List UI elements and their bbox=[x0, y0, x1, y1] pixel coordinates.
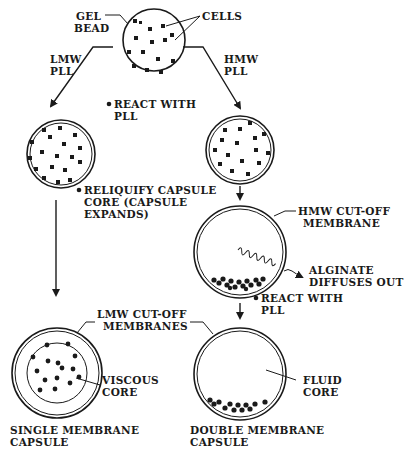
hmw-pll-label-line1: HMW bbox=[224, 53, 258, 65]
lmw-pll-capsule bbox=[27, 120, 95, 188]
single-membrane-caption-line2: CAPSULE bbox=[10, 436, 69, 448]
cells-label: CELLS bbox=[202, 10, 242, 22]
single-membrane-caption-line1: SINGLE MEMBRANE bbox=[10, 424, 139, 436]
viscous-core-label-line2: CORE bbox=[102, 386, 137, 398]
lmw-cutoff-label-line1: LMW CUT-OFF bbox=[97, 308, 187, 320]
viscous-core-leader bbox=[76, 378, 100, 385]
double-membrane-caption-line2: CAPSULE bbox=[190, 436, 249, 448]
fluid-core-label-line2: CORE bbox=[303, 386, 338, 398]
lmw-cutoff-leader-left bbox=[77, 322, 95, 333]
react-with-pll-label-line1: REACT WITH bbox=[114, 98, 196, 110]
alginate-label-line1: ALGINATE bbox=[308, 264, 374, 276]
lmw-cutoff-label-line2: MEMBRANES bbox=[103, 320, 188, 332]
hmw-cutoff-leader bbox=[274, 211, 296, 216]
hmw-cutoff-label-line1: HMW CUT-OFF bbox=[298, 205, 391, 217]
bullet-icon bbox=[107, 102, 112, 107]
fluid-core-leader bbox=[266, 370, 296, 380]
hmw-pll-capsule bbox=[206, 116, 274, 184]
hmw-pll-label-line2: PLL bbox=[224, 65, 248, 77]
lmw-cutoff-leader-right bbox=[190, 322, 213, 334]
react-with-pll-2-line2: PLL bbox=[261, 304, 285, 316]
capsule-formation-diagram: GEL BEAD CELLS LMW PLL HMW PLL REACT WIT… bbox=[0, 0, 418, 460]
viscous-core-label-line1: VISCOUS bbox=[101, 374, 159, 386]
reliquify-label-line2: CORE (CAPSULE bbox=[84, 196, 187, 208]
hmw-reliquified-capsule bbox=[194, 206, 286, 298]
bullet-icon bbox=[254, 296, 259, 301]
gel-bead bbox=[123, 9, 185, 74]
double-membrane-caption-line1: DOUBLE MEMBRANE bbox=[190, 424, 324, 436]
fluid-core-label-line1: FLUID bbox=[303, 374, 342, 386]
settled-cells bbox=[211, 276, 265, 291]
alginate-wave bbox=[237, 247, 277, 266]
lmw-pll-label-line1: LMW bbox=[50, 53, 82, 65]
cells-in-bead bbox=[127, 19, 175, 74]
alginate-out-arrow bbox=[284, 270, 302, 278]
hmw-cutoff-label-line2: MEMBRANE bbox=[303, 217, 380, 229]
reliquify-label-line3: EXPANDS) bbox=[84, 208, 149, 220]
alginate-label-line2: DIFFUSES OUT bbox=[309, 276, 404, 288]
single-membrane-capsule bbox=[12, 328, 102, 418]
lmw-pll-label-line2: PLL bbox=[50, 65, 74, 77]
double-membrane-capsule bbox=[194, 328, 286, 420]
react-with-pll-2-line1: REACT WITH bbox=[261, 292, 343, 304]
gel-bead-label-line1: GEL bbox=[76, 10, 102, 22]
gel-bead-label-line2: BEAD bbox=[74, 22, 109, 34]
bullet-icon bbox=[77, 188, 82, 193]
react-with-pll-label-line2: PLL bbox=[114, 110, 138, 122]
